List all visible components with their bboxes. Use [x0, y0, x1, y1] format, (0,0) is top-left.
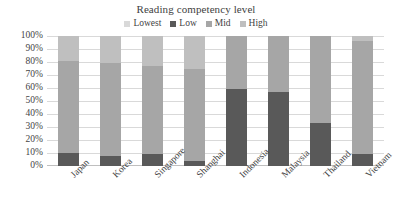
x-axis-slot: Thailand [300, 167, 342, 209]
stacked-bar[interactable] [142, 36, 163, 166]
bar-segment-high[interactable] [142, 36, 163, 66]
stacked-bar[interactable] [310, 36, 331, 166]
bar-segment-low[interactable] [226, 89, 247, 166]
bar-segment-low[interactable] [268, 92, 289, 166]
bar-segment-mid[interactable] [184, 69, 205, 161]
stacked-bar[interactable] [100, 36, 121, 166]
y-axis-tick-label: 80% [0, 57, 43, 67]
y-axis-tick-label: 70% [0, 70, 43, 80]
bar-segment-mid[interactable] [100, 63, 121, 155]
bar-slot [89, 36, 131, 166]
x-axis-slot: Korea [89, 167, 131, 209]
stacked-bar[interactable] [58, 36, 79, 166]
bar-segment-mid[interactable] [352, 41, 373, 154]
chart-legend: LowestLowMidHigh [0, 19, 392, 29]
x-axis-slot: Malaysia [258, 167, 300, 209]
stacked-bar[interactable] [226, 36, 247, 166]
legend-item-label: Mid [215, 19, 231, 29]
x-axis-labels: JapanKoreaSingaporeShanghaiIndonesiaMala… [47, 167, 384, 209]
legend-swatch-icon [206, 21, 212, 27]
bar-segment-mid[interactable] [226, 36, 247, 89]
legend-item-low[interactable]: Low [170, 19, 196, 29]
bar-slot [47, 36, 89, 166]
y-axis-labels: 100%90%80%70%60%50%40%30%20%10%0% [0, 36, 43, 166]
legend-swatch-icon [170, 21, 176, 27]
bar-slot [342, 36, 384, 166]
bar-segment-mid[interactable] [310, 36, 331, 123]
x-axis-slot: Singapore [131, 167, 173, 209]
legend-item-label: Lowest [133, 19, 161, 29]
stacked-bar[interactable] [184, 36, 205, 166]
legend-item-lowest[interactable]: Lowest [124, 19, 161, 29]
y-axis-tick-label: 0% [0, 161, 43, 171]
y-axis-tick-label: 50% [0, 96, 43, 106]
x-axis-slot: Indonesia [216, 167, 258, 209]
bar-group [47, 36, 384, 166]
y-axis-tick-label: 60% [0, 83, 43, 93]
x-axis-slot: Vietnam [342, 167, 384, 209]
y-axis-tick-label: 10% [0, 148, 43, 158]
bar-slot [300, 36, 342, 166]
y-axis-tick-label: 40% [0, 109, 43, 119]
legend-item-high[interactable]: High [240, 19, 268, 29]
stacked-bar[interactable] [268, 36, 289, 166]
x-axis-slot: Japan [47, 167, 89, 209]
y-axis-tick-label: 90% [0, 44, 43, 54]
bar-segment-mid[interactable] [268, 36, 289, 92]
bar-segment-mid[interactable] [142, 66, 163, 154]
plot-area [47, 36, 384, 166]
y-axis-tick-label: 30% [0, 122, 43, 132]
stacked-bar[interactable] [352, 36, 373, 166]
y-axis-tick-label: 20% [0, 135, 43, 145]
chart-title: Reading competency level [0, 3, 392, 15]
legend-item-label: High [249, 19, 268, 29]
legend-swatch-icon [124, 21, 130, 27]
bar-segment-mid[interactable] [58, 61, 79, 153]
legend-item-label: Low [179, 19, 196, 29]
bar-segment-high[interactable] [100, 36, 121, 63]
bar-slot [216, 36, 258, 166]
legend-swatch-icon [240, 21, 246, 27]
bar-segment-high[interactable] [58, 36, 79, 61]
bar-slot [131, 36, 173, 166]
y-axis-tick-label: 100% [0, 31, 43, 41]
bar-segment-low[interactable] [310, 123, 331, 166]
bar-segment-high[interactable] [184, 36, 205, 69]
legend-item-mid[interactable]: Mid [206, 19, 231, 29]
x-axis-slot: Shanghai [173, 167, 215, 209]
